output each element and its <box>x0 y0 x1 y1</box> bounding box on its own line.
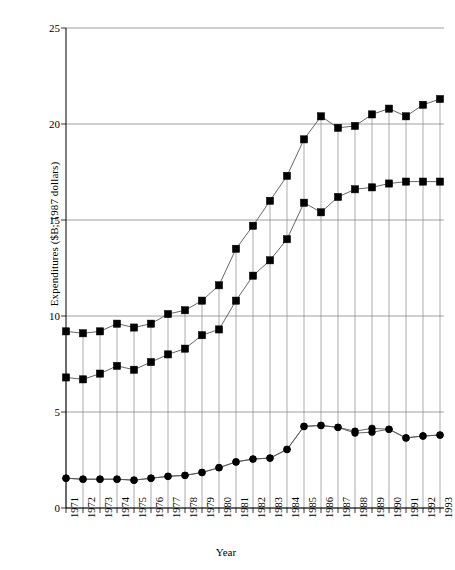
drop-stems <box>66 99 440 508</box>
x-tick-label: 1980 <box>223 497 234 518</box>
x-tick-label: 1971 <box>70 497 81 518</box>
y-tick-label: 15 <box>32 215 60 226</box>
x-tick-label: 1992 <box>427 497 438 518</box>
x-tick-label: 1972 <box>87 497 98 518</box>
y-axis-tick-marks <box>61 28 66 508</box>
x-tick-label: 1986 <box>325 497 336 518</box>
x-tick-label: 1991 <box>410 497 421 518</box>
x-tick-label: 1993 <box>444 497 455 518</box>
x-tick-label: 1975 <box>138 497 149 518</box>
x-tick-label: 1989 <box>376 497 387 518</box>
x-tick-label: 1973 <box>104 497 115 518</box>
x-tick-label: 1981 <box>240 497 251 518</box>
y-tick-label: 25 <box>32 23 60 34</box>
y-axis-tick-labels: 2520151050 <box>30 0 60 570</box>
x-tick-label: 1990 <box>393 497 404 518</box>
x-tick-label: 1977 <box>172 497 183 518</box>
x-tick-label: 1979 <box>206 497 217 518</box>
x-tick-label: 1987 <box>342 497 353 518</box>
y-tick-label: 20 <box>32 119 60 130</box>
x-tick-label: 1976 <box>155 497 166 518</box>
x-tick-label: 1974 <box>121 497 132 518</box>
x-tick-label: 1978 <box>189 497 200 518</box>
axis-lines <box>66 28 444 508</box>
y-tick-label: 5 <box>32 407 60 418</box>
x-tick-label: 1985 <box>308 497 319 518</box>
x-tick-label: 1984 <box>291 497 302 518</box>
x-tick-label: 1982 <box>257 497 268 518</box>
x-tick-label: 1988 <box>359 497 370 518</box>
x-tick-label: 1983 <box>274 497 285 518</box>
gridlines <box>66 28 444 508</box>
x-axis-title: Year <box>0 546 452 558</box>
y-tick-label: 10 <box>32 311 60 322</box>
y-tick-label: 0 <box>32 503 60 514</box>
